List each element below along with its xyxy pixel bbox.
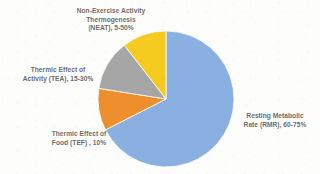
pie-chart-figure: Non-Exercise Activity Thermogenesis (NEA… [0,0,320,174]
pie-label-neat: Non-Exercise Activity Thermogenesis (NEA… [52,7,170,33]
pie-label-tea: Thermic Effect of Activity (TEA), 15-30% [6,66,110,83]
pie-label-tef: Thermic Effect of Food (TEF) , 10% [27,130,131,147]
pie-label-rmr: Resting Metabolic Rate (RMR), 60-75% [232,112,318,129]
